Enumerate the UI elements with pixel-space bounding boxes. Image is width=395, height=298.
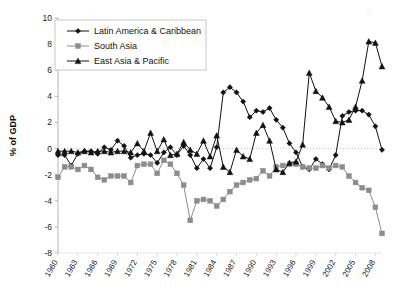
data-point-marker xyxy=(135,163,140,168)
data-point-marker xyxy=(241,180,246,185)
data-point-marker xyxy=(62,164,67,169)
data-point-marker xyxy=(300,164,305,169)
data-point-marker xyxy=(161,137,167,143)
data-point-marker xyxy=(234,183,239,188)
series-line xyxy=(58,160,382,233)
x-tick-label: 1960 xyxy=(43,258,60,278)
data-point-marker xyxy=(221,197,226,202)
y-tick-label: -8 xyxy=(44,248,52,258)
data-point-marker xyxy=(267,105,272,110)
data-point-marker xyxy=(306,70,312,76)
x-tick-label: 1975 xyxy=(142,258,159,278)
data-point-marker xyxy=(293,159,299,165)
data-point-marker xyxy=(247,177,252,182)
data-point-marker xyxy=(75,167,80,172)
chart-legend: Latin America & CaribbeanSouth AsiaEast … xyxy=(55,20,206,70)
y-tick-label: 8 xyxy=(47,39,52,49)
data-point-marker xyxy=(134,140,140,146)
legend-label: South Asia xyxy=(94,41,137,51)
x-tick-label: 2005 xyxy=(341,258,358,278)
x-tick-label: 2008 xyxy=(360,258,377,278)
data-point-marker xyxy=(379,63,385,69)
y-tick-label: 2 xyxy=(47,117,52,127)
data-point-marker xyxy=(148,162,153,167)
x-tick-label: 1984 xyxy=(202,258,219,278)
legend-label: Latin America & Caribbean xyxy=(94,26,201,36)
series-1 xyxy=(55,85,384,172)
data-point-marker xyxy=(360,108,365,113)
data-point-marker xyxy=(220,164,226,170)
data-point-marker xyxy=(108,174,113,179)
data-point-marker xyxy=(135,152,140,157)
data-point-marker xyxy=(82,163,87,168)
x-tick-label: 1981 xyxy=(182,258,199,278)
data-point-marker xyxy=(340,113,345,118)
data-point-marker xyxy=(333,152,338,157)
data-point-marker xyxy=(346,109,351,114)
x-tick-label: 1999 xyxy=(301,258,318,278)
y-tick-label: 0 xyxy=(47,144,52,154)
data-point-marker xyxy=(380,231,385,236)
y-tick-label: -2 xyxy=(44,170,52,180)
data-point-marker xyxy=(234,147,240,153)
x-tick-label: 1969 xyxy=(103,258,120,278)
data-point-marker xyxy=(155,171,160,176)
data-point-marker xyxy=(333,118,339,124)
data-point-marker xyxy=(267,174,272,179)
data-point-marker xyxy=(340,164,345,169)
data-point-marker xyxy=(333,163,338,168)
chart-container: ○1086420-2-4-6-8196019631966196919721975… xyxy=(0,0,395,298)
data-point-marker xyxy=(347,174,352,179)
y-tick-label: -4 xyxy=(44,196,52,206)
data-point-marker xyxy=(148,130,154,136)
data-point-marker xyxy=(175,171,180,176)
data-point-marker xyxy=(260,122,266,128)
y-tick-label: 6 xyxy=(47,65,52,75)
x-tick-label: 1966 xyxy=(83,258,100,278)
x-tick-label: 1996 xyxy=(281,258,298,278)
data-point-marker xyxy=(194,151,200,157)
x-tick-label: 1987 xyxy=(222,258,239,278)
data-point-marker xyxy=(168,162,173,167)
data-point-marker xyxy=(214,204,219,209)
data-point-marker xyxy=(379,147,384,152)
y-axis-title: % of GDP xyxy=(8,115,18,156)
x-tick-label: 1963 xyxy=(63,258,80,278)
x-tick-label: 1993 xyxy=(261,258,278,278)
data-point-marker xyxy=(313,88,319,94)
data-point-marker xyxy=(181,183,186,188)
data-point-marker xyxy=(69,164,74,169)
data-point-marker xyxy=(307,166,312,171)
data-point-marker xyxy=(208,198,213,203)
data-point-marker xyxy=(353,180,358,185)
data-point-marker xyxy=(228,189,233,194)
x-tick-label: 1972 xyxy=(122,258,139,278)
data-point-marker xyxy=(161,158,166,163)
line-chart: ○1086420-2-4-6-8196019631966196919721975… xyxy=(0,0,395,298)
watermark: ○ xyxy=(366,8,371,18)
data-point-marker xyxy=(261,168,266,173)
x-tick-label: 1990 xyxy=(241,258,258,278)
data-point-marker xyxy=(154,148,160,154)
data-point-marker xyxy=(194,198,199,203)
data-point-marker xyxy=(142,162,147,167)
data-point-marker xyxy=(373,205,378,210)
y-tick-label: 4 xyxy=(47,91,52,101)
data-point-marker xyxy=(95,175,100,180)
x-tick-label: 1978 xyxy=(162,258,179,278)
data-point-marker xyxy=(267,138,273,144)
y-tick-label: -6 xyxy=(44,222,52,232)
x-tick-label: 2002 xyxy=(321,258,338,278)
data-point-marker xyxy=(128,155,133,160)
data-point-marker xyxy=(89,167,94,172)
data-point-marker xyxy=(359,78,365,84)
data-point-marker xyxy=(56,175,61,180)
data-point-marker xyxy=(115,174,120,179)
data-point-marker xyxy=(373,124,378,129)
data-point-marker xyxy=(207,153,213,159)
series-line xyxy=(58,87,382,169)
data-point-marker xyxy=(360,185,365,190)
data-point-marker xyxy=(102,177,107,182)
data-point-marker xyxy=(260,109,265,114)
data-point-marker xyxy=(353,104,359,110)
